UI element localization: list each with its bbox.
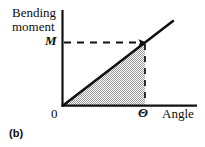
y-axis-label-line2: moment	[12, 20, 56, 34]
y-axis-label-line1: Bending	[12, 6, 56, 20]
x-axis-label: Angle	[162, 107, 194, 121]
y-axis-label: Bending moment	[12, 6, 56, 34]
bending-moment-figure: Bending moment M 0 Θ Angle (b)	[0, 0, 205, 147]
x-tick-label-theta: Θ	[138, 106, 148, 120]
origin-label: 0	[51, 107, 58, 121]
y-tick-label-m: M	[45, 34, 57, 48]
panel-label: (b)	[9, 128, 23, 140]
